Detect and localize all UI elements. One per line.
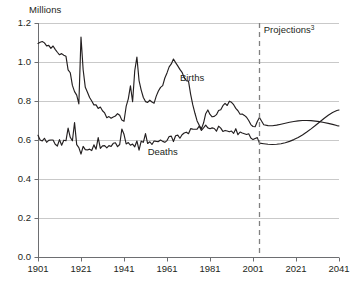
x-tick-label: 1921 bbox=[70, 263, 91, 274]
x-tick-label: 1961 bbox=[156, 263, 177, 274]
y-axis bbox=[35, 23, 39, 258]
y-tick-label: 0.0 bbox=[18, 251, 31, 262]
x-tick-label: 1981 bbox=[199, 263, 220, 274]
births-deaths-line-chart: Millions 0.00.20.40.60.81.01.2 190119211… bbox=[0, 0, 352, 285]
x-tick-label: 1941 bbox=[113, 263, 134, 274]
x-tick-label: 1901 bbox=[27, 263, 48, 274]
chart-annotations: Projections3BirthsDeaths bbox=[148, 24, 315, 157]
annotation-births: Births bbox=[180, 72, 205, 83]
annotation-deaths: Deaths bbox=[148, 146, 178, 157]
series-line-deaths-projected bbox=[259, 110, 339, 145]
y-tick-label: 0.4 bbox=[18, 173, 31, 184]
x-tick-label: 2001 bbox=[242, 263, 263, 274]
y-tick-labels: 0.00.20.40.60.81.01.2 bbox=[18, 17, 31, 262]
x-tick-label: 2041 bbox=[328, 263, 349, 274]
data-series bbox=[38, 37, 339, 154]
y-tick-label: 0.8 bbox=[18, 95, 31, 106]
y-tick-label: 1.2 bbox=[18, 17, 31, 28]
x-axis bbox=[38, 258, 340, 262]
y-tick-label: 1.0 bbox=[18, 56, 31, 67]
annotation-projections: Projections3 bbox=[264, 24, 315, 35]
series-line-births bbox=[38, 37, 259, 129]
chart-plot-area: 0.00.20.40.60.81.01.2 190119211941196119… bbox=[0, 0, 352, 285]
x-tick-labels: 19011921194119611981200120212041 bbox=[27, 263, 349, 274]
series-line-births-projected bbox=[259, 118, 339, 126]
y-tick-label: 0.6 bbox=[18, 134, 31, 145]
x-tick-label: 2021 bbox=[285, 263, 306, 274]
y-tick-label: 0.2 bbox=[18, 212, 31, 223]
